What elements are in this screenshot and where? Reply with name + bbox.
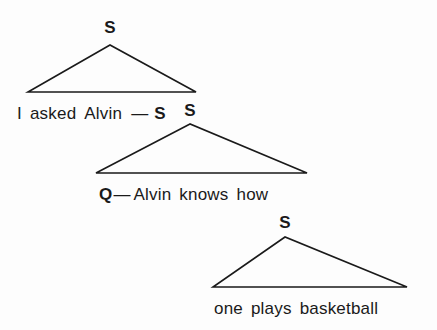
triangle-s2 <box>96 124 307 173</box>
terminal-word: I <box>17 105 22 122</box>
terminal-row-1: IaskedAlvin—S <box>17 105 166 122</box>
syntax-tree-figure: S S S IaskedAlvin—S Q—Alvinknowshow onep… <box>0 0 437 330</box>
node-label-s3: S <box>279 214 291 231</box>
terminal-word: Alvin <box>84 105 122 122</box>
terminal-row-2: Q—Alvinknowshow <box>96 186 268 203</box>
terminal-word: how <box>236 186 268 203</box>
node-label-s1: S <box>104 19 116 36</box>
node-label-s2: S <box>184 102 196 119</box>
terminal-word: knows <box>179 186 228 203</box>
terminal-category-label: Q <box>99 186 112 203</box>
terminal-word: Alvin <box>133 186 171 203</box>
tree-lines <box>0 0 437 330</box>
terminal-word: basketball <box>300 300 379 317</box>
triangle-s3 <box>213 237 407 287</box>
terminal-word: asked <box>30 105 76 122</box>
link-dash: — <box>113 186 130 203</box>
terminal-row-3: oneplaysbasketball <box>214 300 378 317</box>
link-dash: — <box>131 105 148 122</box>
terminal-word: plays <box>251 300 292 317</box>
terminal-word: one <box>214 300 243 317</box>
terminal-category-label: S <box>154 105 166 122</box>
triangle-s1 <box>28 45 196 92</box>
